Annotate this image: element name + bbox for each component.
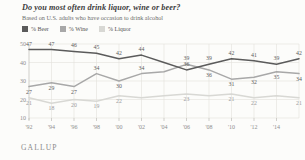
data-label: 19	[94, 103, 100, 109]
y-axis-tick-label: 20	[20, 97, 26, 103]
data-label: 30	[116, 83, 122, 89]
data-label: 20	[71, 102, 77, 108]
x-axis-tick-label: '98	[93, 124, 100, 130]
data-label: 29	[49, 85, 55, 91]
y-axis-tick-label: 40	[20, 60, 26, 66]
legend-swatch-beer	[22, 26, 28, 32]
data-label: 21	[229, 96, 235, 102]
data-label: 22	[116, 98, 122, 104]
x-axis-tick-label: '96	[70, 124, 77, 130]
page-title: Do you most often drink liquor, wine or …	[22, 3, 181, 12]
legend-swatch-liquor	[99, 26, 105, 32]
legend-swatch-wine	[60, 26, 66, 32]
data-label: 34	[94, 65, 100, 71]
x-axis-tick-label: '02	[138, 124, 145, 130]
data-label: 27	[71, 89, 77, 95]
legend-item-liquor[interactable]: % Liquor	[99, 26, 131, 32]
data-label: 41	[251, 52, 257, 58]
x-axis-tick-label: '12	[250, 124, 257, 130]
data-label: 35	[274, 74, 280, 80]
legend-item-beer[interactable]: % Beer	[22, 26, 49, 32]
x-axis-tick-label: '94	[48, 124, 55, 130]
data-label: 39	[274, 55, 280, 61]
data-label: 31	[229, 81, 235, 87]
x-axis-tick-label: '14	[273, 124, 280, 130]
data-label: 39	[184, 55, 190, 61]
data-label: 42	[229, 50, 235, 56]
legend-label-liquor: % Liquor	[108, 26, 131, 32]
data-label: 27	[26, 89, 32, 95]
data-label: 22	[251, 100, 257, 106]
x-axis-tick-label: '10	[228, 124, 235, 130]
data-label: 47	[26, 41, 32, 47]
data-label: 42	[116, 50, 122, 56]
data-label: 34	[296, 76, 302, 82]
data-label: 44	[139, 46, 145, 52]
gallup-logo: GALLUP	[21, 143, 58, 152]
chart-card: Do you most often drink liquor, wine or …	[0, 0, 305, 160]
data-label: 23	[184, 96, 190, 102]
data-label: 21	[26, 100, 32, 106]
data-label: 36	[184, 61, 190, 67]
x-axis-tick-label: '92	[25, 124, 32, 130]
data-label: 45	[94, 44, 100, 50]
x-axis-tick-label: '04	[160, 124, 167, 130]
data-label: 32	[251, 79, 257, 85]
data-label: 46	[71, 42, 77, 48]
legend-item-wine[interactable]: % Wine	[60, 26, 88, 32]
x-axis-tick-label: '08	[205, 124, 212, 130]
line-chart-plot: 5040302010'92'94'96'98'00'02'04'06'08'10…	[0, 34, 305, 138]
page-subtitle: Based on U.S. adults who have occasion t…	[22, 14, 163, 21]
chart-legend: % Beer % Wine % Liquor	[22, 26, 131, 32]
x-axis-tick-label: '06	[183, 124, 190, 130]
data-label: 21	[296, 100, 302, 106]
y-axis-tick-label: 50	[20, 41, 26, 47]
data-label: 39	[206, 55, 212, 61]
data-label: 34	[139, 65, 145, 71]
data-label: 47	[49, 41, 55, 47]
x-axis-tick-label: '00	[115, 124, 122, 130]
y-axis-tick-label: 10	[20, 115, 26, 121]
legend-label-beer: % Beer	[31, 26, 49, 32]
y-axis-tick-label: 30	[20, 78, 26, 84]
data-label: 42	[296, 50, 302, 56]
data-label: 18	[49, 105, 55, 111]
chart-svg: 5040302010'92'94'96'98'00'02'04'06'08'10…	[0, 34, 305, 138]
data-label: 36	[206, 72, 212, 78]
legend-label-wine: % Wine	[69, 26, 88, 32]
